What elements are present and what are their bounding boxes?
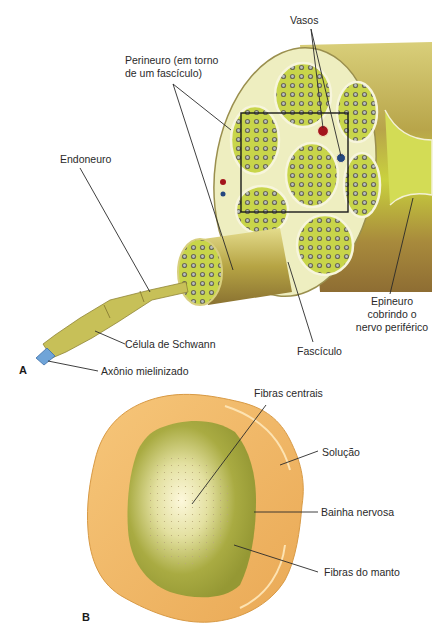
panel-label-a: A: [19, 364, 27, 376]
label-perineuro-line2: de um fascículo): [125, 67, 202, 80]
fascicle: [231, 106, 279, 174]
leader-perineuro-1: [173, 84, 231, 130]
label-endoneuro: Endoneuro: [60, 153, 111, 166]
fascicle: [275, 63, 331, 127]
vessel-small-artery: [220, 179, 226, 185]
label-epineuro-line2: cobrindo o: [354, 308, 430, 321]
leader-axonio: [48, 361, 98, 371]
fascicle-cylinder-end: [178, 239, 222, 305]
label-epineuro-line1: Epineuro: [354, 295, 430, 308]
label-bainha-nervosa: Bainha nervosa: [321, 506, 394, 519]
fascicle: [344, 153, 380, 217]
label-fibras-do-manto: Fibras do manto: [324, 566, 400, 579]
label-solucao: Solução: [322, 446, 360, 459]
nerve-sheath-cross-section: [87, 394, 303, 622]
leader-endoneuro: [80, 168, 150, 292]
label-epineuro-line3: nervo periférico: [354, 321, 430, 334]
fascicle: [337, 82, 377, 142]
label-vasos: Vasos: [290, 14, 318, 27]
label-perineuro-line1: Perineuro (em torno: [125, 54, 218, 67]
fascicle: [236, 186, 288, 234]
label-fasciculo: Fascículo: [297, 345, 342, 358]
label-axonio-mielinizado: Axônio mielinizado: [101, 365, 189, 378]
label-fibras-centrais: Fibras centrais: [254, 387, 323, 400]
fascicle: [297, 215, 353, 275]
leader-schwann: [95, 331, 125, 344]
fascicle: [286, 143, 338, 207]
label-celula-schwann: Célula de Schwann: [125, 338, 215, 351]
label-epineuro: Epineuro cobrindo o nervo periférico: [354, 295, 430, 334]
vessel-small-vein: [221, 192, 226, 197]
panel-label-b: B: [82, 611, 90, 623]
